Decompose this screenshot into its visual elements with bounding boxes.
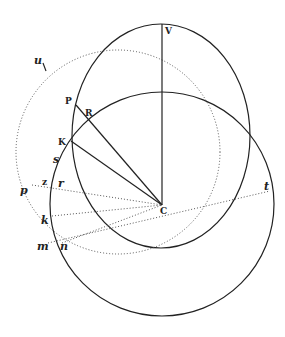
label-s: s — [53, 153, 59, 166]
label-r: r — [58, 177, 65, 190]
line-mt — [48, 191, 270, 243]
label-m: m — [37, 240, 49, 253]
line-PC — [76, 105, 162, 205]
label-V: V — [164, 26, 173, 36]
label-n: n — [60, 240, 68, 253]
label-z: z — [42, 177, 47, 187]
geometry-diagram: V C P R K s z r p k m n t u — [0, 0, 285, 337]
u-tick-mark — [43, 63, 46, 71]
line-KC — [71, 141, 162, 205]
label-R: R — [85, 108, 93, 118]
label-C: C — [160, 206, 167, 216]
line-kC — [52, 205, 162, 216]
label-P: P — [65, 96, 72, 106]
label-k: k — [41, 214, 49, 227]
label-K: K — [58, 137, 67, 147]
label-t: t — [264, 180, 269, 193]
label-p: p — [20, 184, 28, 197]
label-u: u — [34, 54, 42, 67]
line-nC — [62, 205, 162, 243]
